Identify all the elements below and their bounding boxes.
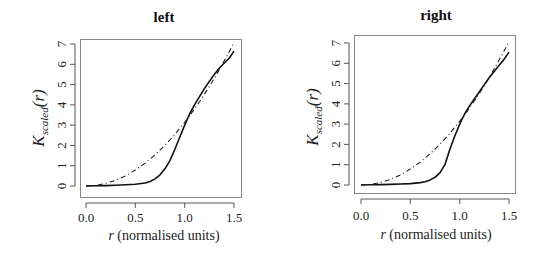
panel-title: right xyxy=(420,7,452,23)
x-tick-label: 1.5 xyxy=(501,208,517,223)
panel-title: left xyxy=(154,9,175,25)
empirical-curve xyxy=(361,52,509,185)
y-tick-label: 4 xyxy=(328,100,343,107)
x-tick-label: 1.0 xyxy=(452,208,468,223)
y-axis-label: Kscaled(r) xyxy=(29,89,50,148)
x-tick-label: 0.0 xyxy=(353,208,369,223)
plot-frame xyxy=(355,36,516,194)
y-tick-label: 1 xyxy=(54,162,69,169)
y-axis-label: Kscaled(r) xyxy=(303,88,324,147)
y-tick-label: 6 xyxy=(328,60,343,67)
y-tick-label: 5 xyxy=(54,81,69,88)
x-axis: 0.0 0.5 1.0 1.5 xyxy=(353,199,517,223)
x-tick-label: 1.0 xyxy=(177,210,193,225)
x-axis: 0.0 0.5 1.0 1.5 xyxy=(78,203,242,225)
y-tick-label: 7 xyxy=(328,39,343,46)
x-tick-label: 1.5 xyxy=(226,210,242,225)
panel-right: right 0.0 0.5 1.0 1.5 0 1 2 3 xyxy=(303,7,517,243)
empirical-curve xyxy=(86,51,234,186)
y-tick-label: 7 xyxy=(54,40,69,47)
y-tick-label: 2 xyxy=(54,142,69,149)
y-tick-label: 5 xyxy=(328,80,343,87)
x-tick-label: 0.0 xyxy=(78,210,94,225)
theoretical-curve xyxy=(361,42,509,185)
figure: left 0.0 0.5 1.0 1.5 0 1 2 3 xyxy=(0,0,536,254)
y-tick-label: 1 xyxy=(328,161,343,168)
y-tick-label: 0 xyxy=(328,182,343,189)
x-axis-label: r (normalised units) xyxy=(108,228,220,244)
x-tick-label: 0.5 xyxy=(127,210,143,225)
x-tick-label: 0.5 xyxy=(402,208,418,223)
y-tick-label: 4 xyxy=(54,101,69,108)
y-tick-label: 3 xyxy=(328,121,343,128)
panel-left: left 0.0 0.5 1.0 1.5 0 1 2 3 xyxy=(29,9,242,244)
theoretical-curve xyxy=(86,43,234,186)
y-tick-label: 2 xyxy=(328,141,343,148)
y-tick-label: 3 xyxy=(54,122,69,129)
y-axis: 0 1 2 3 4 5 6 7 xyxy=(328,39,349,188)
y-axis: 0 1 2 3 4 5 6 7 xyxy=(54,40,75,189)
y-tick-label: 0 xyxy=(54,183,69,190)
x-axis-label: r (normalised units) xyxy=(380,227,492,243)
y-tick-label: 6 xyxy=(54,61,69,68)
